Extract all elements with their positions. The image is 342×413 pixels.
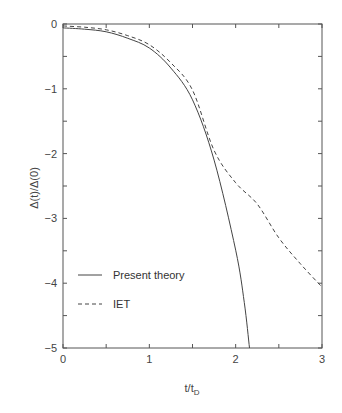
y-tick-label: −2 — [44, 148, 57, 160]
x-tick-label: 3 — [319, 353, 325, 365]
x-tick-label: 0 — [60, 353, 66, 365]
y-tick-label: 0 — [51, 18, 57, 30]
legend: Present theory IET — [78, 269, 185, 310]
plot-border — [63, 24, 322, 348]
y-axis-label: Δ(t)/Δ(0) — [28, 167, 40, 209]
y-tick-label: −3 — [44, 212, 57, 224]
x-axis-label: t/tD — [185, 382, 200, 397]
legend-label-iet: IET — [113, 298, 130, 310]
line-chart: 01230−1−2−3−4−5 t/tD Δ(t)/Δ(0) Present t… — [0, 0, 342, 413]
x-axis-label-subscript: D — [194, 388, 200, 397]
axis-ticks — [63, 24, 322, 348]
y-tick-label: −5 — [44, 342, 57, 354]
data-series — [63, 26, 322, 348]
series-iet-line — [63, 26, 322, 287]
y-tick-label: −1 — [44, 83, 57, 95]
y-tick-label: −4 — [44, 277, 57, 289]
tick-labels: 01230−1−2−3−4−5 — [44, 18, 325, 365]
legend-label-present-theory: Present theory — [113, 269, 185, 281]
x-tick-label: 2 — [233, 353, 239, 365]
series-present-theory-line — [63, 28, 250, 348]
plot-frame — [63, 24, 322, 348]
x-tick-label: 1 — [146, 353, 152, 365]
